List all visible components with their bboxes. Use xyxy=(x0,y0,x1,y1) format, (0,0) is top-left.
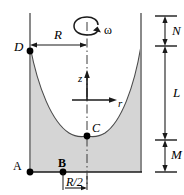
point-marker-d xyxy=(27,48,34,55)
label-point-a: A xyxy=(13,160,22,172)
label-dim-l: L xyxy=(173,86,180,99)
dim-l-arrowhead-bottom xyxy=(162,133,167,140)
rotating-container-diagram: D R ω z r C A B R/2 N L M xyxy=(0,0,184,195)
label-point-b: B xyxy=(58,157,66,169)
label-axis-r: r xyxy=(118,98,122,109)
point-marker-a xyxy=(27,169,34,176)
label-half-radius: R/2 xyxy=(66,176,83,188)
dim-l-arrowhead-top xyxy=(162,46,167,53)
r-axis-arrowhead xyxy=(109,97,117,103)
dim-n-arrowhead-bottom xyxy=(162,39,167,46)
diagram-canvas xyxy=(0,0,184,195)
dim-m-arrowhead-bottom xyxy=(162,165,167,172)
label-dim-n: N xyxy=(172,24,181,37)
label-dim-m: M xyxy=(171,148,182,161)
omega-rotation-arc xyxy=(74,17,98,35)
point-marker-c xyxy=(84,133,91,140)
label-axis-z: z xyxy=(78,73,82,84)
z-axis-arrowhead xyxy=(84,70,90,78)
label-radius: R xyxy=(54,28,62,41)
label-point-c: C xyxy=(92,122,100,134)
label-omega: ω xyxy=(104,24,112,36)
radius-arrowhead-right xyxy=(80,42,87,47)
dim-n-arrowhead-top xyxy=(162,16,167,23)
liquid-region-fill xyxy=(30,46,141,172)
radius-arrowhead-left xyxy=(30,42,37,47)
label-point-d: D xyxy=(14,40,23,53)
dim-m-arrowhead-top xyxy=(162,140,167,147)
